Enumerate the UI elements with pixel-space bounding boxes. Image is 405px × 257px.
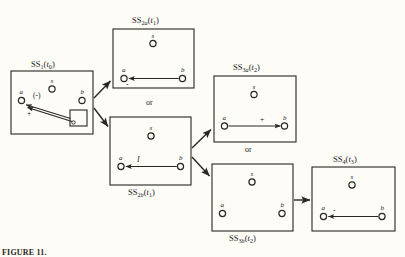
ss3b-node-a[interactable] bbox=[219, 210, 225, 216]
ss3a-node-a-label: a bbox=[223, 115, 227, 122]
ss3a-node-s-label: s bbox=[253, 84, 256, 91]
state-label-ss4: SS4(t3) bbox=[333, 155, 357, 165]
ss2b-node-a-label: a bbox=[119, 155, 123, 162]
ss2a-relation-label: - bbox=[126, 81, 129, 89]
ss2b-node-s-label: s bbox=[150, 125, 153, 132]
ss1-node-s-label: s bbox=[51, 78, 54, 85]
transition-ss2b-to-ss3b[interactable] bbox=[192, 157, 210, 176]
ss3b-node-a-label: a bbox=[221, 202, 225, 209]
ss2b-node-a[interactable] bbox=[118, 163, 124, 169]
ss4-node-s-label: s bbox=[351, 174, 354, 181]
state-label-ss2b: SS2b(t1) bbox=[128, 188, 155, 198]
state-label-ss2a: SS2a(t1) bbox=[132, 16, 159, 26]
diagram-svg bbox=[0, 0, 405, 257]
ss4-node-b-label: b bbox=[381, 205, 385, 212]
ss2a-node-s-label: s bbox=[152, 33, 155, 40]
ss2a-node-b[interactable] bbox=[179, 75, 185, 81]
ss1-relation-neg[interactable] bbox=[26, 105, 71, 119]
ss3a-node-b[interactable] bbox=[281, 123, 287, 129]
transition-ss1-to-ss2b[interactable] bbox=[94, 108, 108, 127]
ss4-node-a-label: a bbox=[322, 205, 326, 212]
ss3b-node-s[interactable] bbox=[249, 179, 255, 185]
ss4-node-s[interactable] bbox=[349, 182, 355, 188]
ss2a-node-b-label: b bbox=[181, 67, 185, 74]
state-label-ss3b: SS3b(t2) bbox=[229, 234, 256, 244]
or-connector-top: or bbox=[146, 99, 153, 107]
ss3a-relation-label: + bbox=[260, 116, 264, 124]
ss2a-node-s[interactable] bbox=[150, 40, 156, 46]
ss1-mini-box-dot bbox=[72, 121, 75, 124]
state-label-ss1: SS1(t0) bbox=[31, 60, 55, 70]
state-label-ss3a: SS3a(t2) bbox=[233, 63, 260, 73]
ss3b-node-b-label: b bbox=[281, 202, 285, 209]
ss3a-node-s[interactable] bbox=[251, 91, 257, 97]
state-box-ss4[interactable] bbox=[312, 167, 395, 231]
ss4-node-b[interactable] bbox=[379, 213, 385, 219]
ss2b-node-b[interactable] bbox=[177, 163, 183, 169]
ss1-node-b[interactable] bbox=[79, 97, 85, 103]
ss4-frame bbox=[312, 167, 395, 231]
ss3a-node-b-label: b bbox=[283, 115, 287, 122]
ss1-relation-pos[interactable] bbox=[28, 108, 73, 122]
transition-ss2b-to-ss3a[interactable] bbox=[192, 130, 211, 149]
ss4-node-a[interactable] bbox=[320, 213, 326, 219]
ss1-relation-pos-label: + bbox=[27, 110, 31, 118]
ss1-relation-neg-label: (-) bbox=[33, 92, 41, 100]
ss3a-node-a[interactable] bbox=[221, 123, 227, 129]
ss2b-node-b-label: b bbox=[179, 155, 183, 162]
ss2b-relation-label: I bbox=[137, 156, 140, 164]
ss1-node-s[interactable] bbox=[49, 86, 55, 92]
transition-ss1-to-ss2a[interactable] bbox=[94, 81, 111, 98]
ss3b-node-b[interactable] bbox=[279, 210, 285, 216]
ss1-node-a-label: a bbox=[20, 89, 24, 96]
ss2b-node-s[interactable] bbox=[148, 133, 154, 139]
or-connector-bottom: or bbox=[245, 146, 252, 154]
ss3b-node-s-label: s bbox=[251, 171, 254, 178]
figure-caption: FIGURE 11. bbox=[2, 248, 47, 257]
ss1-node-a[interactable] bbox=[18, 97, 24, 103]
ss1-node-b-label: b bbox=[81, 89, 85, 96]
ss4-relation-label: - bbox=[333, 207, 336, 215]
ss2a-node-a-label: a bbox=[122, 67, 126, 74]
figure-canvas: SS1(t0) a s b (-) + SS2a(t1) a s b - SS2… bbox=[0, 0, 405, 257]
